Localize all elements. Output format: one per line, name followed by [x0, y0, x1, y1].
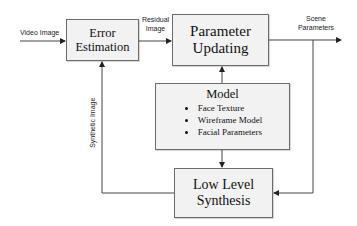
parameter-updating-block: Parameter Updating: [172, 14, 269, 66]
label-scene-line2: Parameters: [290, 23, 342, 32]
label-residual-line1: Residual: [139, 15, 172, 24]
label-scene-line1: Scene: [290, 14, 342, 23]
model-item: Wireframe Model: [197, 115, 262, 127]
model-block: Model Face Texture Wireframe Model Facia…: [155, 83, 290, 150]
label-synthetic-image: Synthetic Image: [88, 93, 97, 153]
label-scene-parameters: Scene Parameters: [290, 14, 342, 33]
model-items-list: Face Texture Wireframe Model Facial Para…: [183, 103, 262, 138]
label-residual-line2: Image: [139, 24, 172, 33]
low-level-synthesis-line1: Low Level: [193, 177, 254, 193]
low-level-synthesis-block: Low Level Synthesis: [174, 168, 273, 218]
error-estimation-line1: Error: [89, 26, 115, 40]
model-title: Model: [206, 87, 239, 101]
error-estimation-line2: Estimation: [75, 40, 129, 54]
parameter-updating-line1: Parameter: [190, 23, 251, 40]
low-level-synthesis-line2: Synthesis: [197, 193, 251, 209]
model-item: Face Texture: [197, 103, 262, 115]
label-residual-image: Residual Image: [139, 15, 172, 34]
model-item: Facial Parameters: [197, 127, 262, 139]
label-video-image: Video Image: [20, 28, 59, 37]
error-estimation-block: Error Estimation: [66, 19, 139, 61]
parameter-updating-line2: Updating: [193, 40, 249, 57]
